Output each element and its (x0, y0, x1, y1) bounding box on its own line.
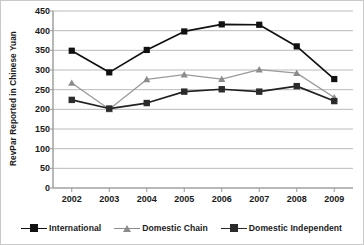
y-tick-label: 0 (20, 184, 50, 193)
y-tick-label: 200 (20, 105, 50, 114)
data-point-marker (219, 86, 225, 92)
data-point-marker (144, 100, 150, 106)
series-domestic-independent (69, 83, 338, 112)
legend-item[interactable]: International (21, 222, 101, 234)
data-point-marker (144, 47, 150, 53)
y-axis-tick-labels: 450400350300250200150100500 (17, 0, 50, 200)
x-tick-label: 2003 (89, 195, 129, 204)
x-axis-tick-labels: 20022003200420052006200720082009 (53, 190, 353, 210)
data-point-marker (331, 98, 337, 104)
legend-square-icon (30, 224, 38, 232)
data-point-marker (69, 97, 75, 103)
data-point-marker (294, 43, 300, 49)
legend-label: Domestic Independent (249, 223, 342, 233)
data-point-marker (69, 48, 75, 54)
y-tick-label: 50 (20, 164, 50, 173)
legend-item[interactable]: Domestic Independent (221, 222, 342, 234)
y-tick-label: 250 (20, 85, 50, 94)
x-tick-label: 2007 (239, 195, 279, 204)
legend-label: International (49, 223, 101, 233)
series-layer (68, 21, 338, 112)
x-tick-label: 2005 (164, 195, 204, 204)
x-tick-label: 2008 (277, 195, 317, 204)
legend-marker-icon (114, 222, 140, 234)
data-point-marker (294, 83, 300, 89)
y-tick-label: 350 (20, 46, 50, 55)
data-point-marker (106, 105, 112, 111)
data-point-marker (106, 69, 112, 75)
data-point-marker (68, 79, 75, 85)
legend-triangle-icon (123, 225, 131, 232)
plot-area (53, 11, 353, 188)
y-tick-label: 150 (20, 125, 50, 134)
plot-svg (53, 11, 353, 188)
chart-legend: InternationalDomestic ChainDomestic Inde… (0, 218, 363, 238)
y-tick-label: 400 (20, 26, 50, 35)
legend-marker-icon (221, 222, 247, 234)
y-tick-label: 450 (20, 7, 50, 16)
y-tick-label: 300 (20, 66, 50, 75)
x-tick-label: 2006 (202, 195, 242, 204)
x-tick-label: 2004 (127, 195, 167, 204)
gridlines (53, 11, 353, 188)
legend-item[interactable]: Domestic Chain (114, 222, 208, 234)
data-point-marker (181, 28, 187, 34)
axis-lines (49, 11, 353, 192)
legend-marker-icon (21, 222, 47, 234)
x-tick-label: 2002 (52, 195, 92, 204)
data-point-marker (331, 76, 337, 82)
data-point-marker (256, 88, 262, 94)
data-point-marker (219, 21, 225, 27)
data-point-marker (181, 88, 187, 94)
data-point-marker (256, 22, 262, 28)
legend-square-icon (230, 224, 238, 232)
y-tick-label: 100 (20, 144, 50, 153)
legend-label: Domestic Chain (142, 223, 208, 233)
x-tick-label: 2009 (314, 195, 354, 204)
